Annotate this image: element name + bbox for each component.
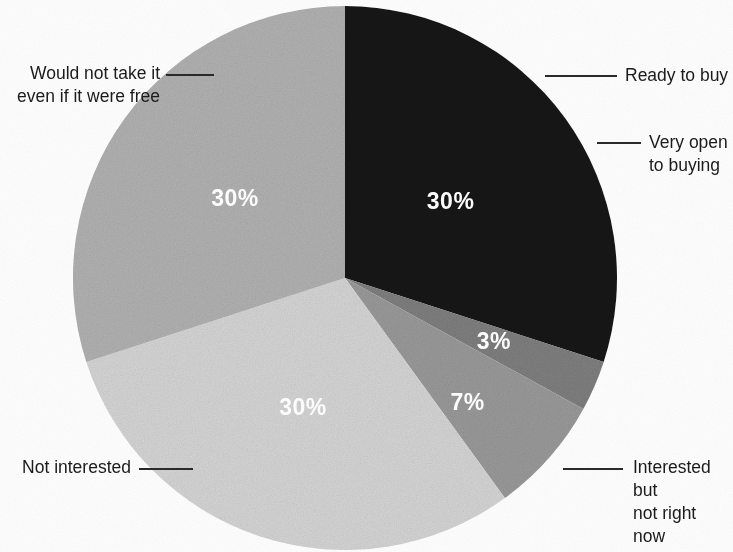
- callout-label-very-open: Very open to buying: [649, 131, 733, 177]
- pie-slice-value-label: 30%: [427, 188, 475, 214]
- leader-line-very-open: [597, 142, 641, 144]
- pie-chart-figure: 30%3%7%30%30% Would not take it even if …: [0, 0, 733, 552]
- callout-label-not-interested: Not interested: [0, 456, 131, 479]
- pie-slice-value-label: 3%: [477, 328, 511, 354]
- leader-line-interested-but: [563, 468, 623, 470]
- leader-line-ready-to-buy: [545, 75, 617, 77]
- callout-label-interested-but: Interested but not right now: [633, 456, 733, 548]
- pie-slice-value-label: 7%: [450, 389, 484, 415]
- callout-label-ready-to-buy: Ready to buy: [625, 64, 733, 87]
- leader-line-would-not-take: [166, 74, 214, 76]
- pie-slice-value-label: 30%: [211, 185, 259, 211]
- pie-slice-value-label: 30%: [279, 394, 327, 420]
- leader-line-not-interested: [139, 468, 193, 470]
- callout-label-would-not-take: Would not take it even if it were free: [8, 62, 160, 108]
